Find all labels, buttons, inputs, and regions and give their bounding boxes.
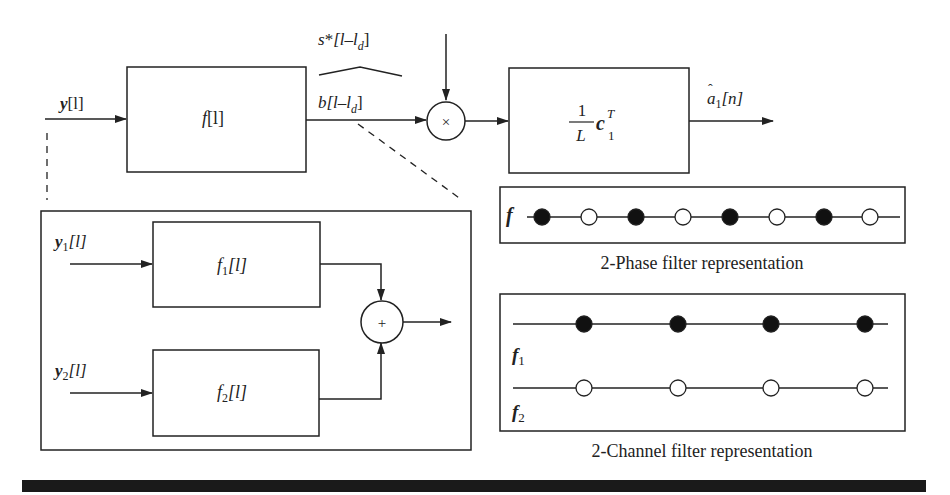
tap-filled-icon <box>534 209 550 225</box>
bottom-rule <box>22 480 926 492</box>
subfilter2-label: f2[l] <box>217 382 247 405</box>
conjugate-label: s*[l–ld] <box>318 30 369 53</box>
tap-open-icon <box>675 209 691 225</box>
tap-open-icon <box>670 380 686 396</box>
svg-text:L: L <box>575 126 585 145</box>
subfilter2-out-arrow <box>319 343 381 399</box>
subfilter1-out-arrow <box>320 264 381 300</box>
multiply-icon: × <box>442 114 450 130</box>
input1-label: y1[l] <box>53 232 87 254</box>
channel2-label: f2 <box>512 401 525 425</box>
hat-icon: ˆ <box>708 82 713 97</box>
correlator-label: 1 L c T 1 <box>569 101 615 145</box>
svg-text:1: 1 <box>578 101 587 120</box>
zoom-dashed-line-right <box>358 124 462 200</box>
phase-representation-panel: f 2-Phase filter representation <box>500 187 905 273</box>
tap-open-icon <box>862 209 878 225</box>
tap-open-icon <box>576 380 592 396</box>
svg-text:c: c <box>596 112 605 134</box>
channel1-label: f1 <box>512 344 525 368</box>
channel-caption: 2-Channel filter representation <box>592 441 813 461</box>
tap-filled-icon <box>670 316 686 332</box>
tap-open-icon <box>857 380 873 396</box>
tap-open-icon <box>769 209 785 225</box>
tap-filled-icon <box>763 316 779 332</box>
plus-icon: + <box>378 315 386 331</box>
top-signal-chain: y[l] f[l] s*[l–ld] b[l–ld] × 1 L c T 1 <box>45 30 773 173</box>
tap-filled-icon <box>816 209 832 225</box>
branch-label: b[l–ld] <box>318 93 363 116</box>
overbrace-icon <box>319 67 402 76</box>
tap-filled-icon <box>576 316 592 332</box>
filter-block-label: f[l] <box>202 108 224 128</box>
tap-filled-icon <box>857 316 873 332</box>
input-label: y[l] <box>58 94 84 113</box>
input2-label: y2[l] <box>53 361 87 383</box>
tap-open-icon <box>763 380 779 396</box>
phase-label: f <box>506 204 515 227</box>
svg-text:1: 1 <box>608 128 615 143</box>
svg-text:T: T <box>607 106 615 121</box>
subfilter1-label: f1[l] <box>217 255 247 278</box>
tap-open-icon <box>581 209 597 225</box>
expanded-filter-panel: y1[l] f1[l] y2[l] f2[l] + <box>41 211 471 450</box>
diagram-canvas: y[l] f[l] s*[l–ld] b[l–ld] × 1 L c T 1 <box>0 0 950 495</box>
tap-filled-icon <box>628 209 644 225</box>
tap-filled-icon <box>722 209 738 225</box>
channel-representation-panel: f1 f2 2-Channel filter representation <box>500 294 905 461</box>
phase-caption: 2-Phase filter representation <box>601 253 804 273</box>
